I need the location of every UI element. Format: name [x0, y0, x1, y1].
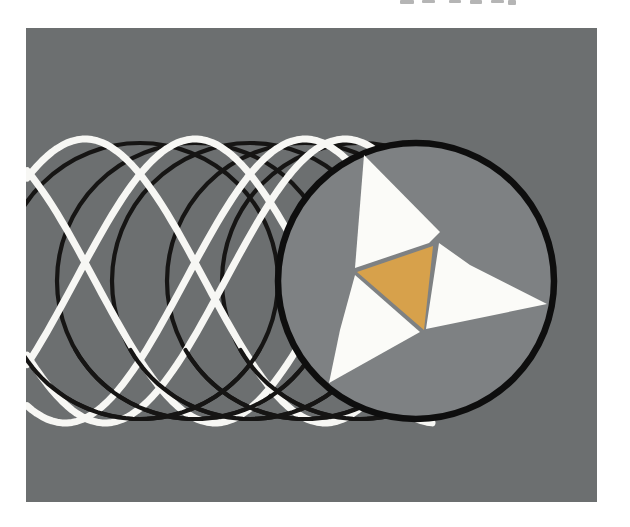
figure-svg	[0, 0, 630, 527]
scanned-page	[0, 0, 630, 527]
cropped-text-mark	[470, 0, 482, 4]
cropped-text-mark	[400, 0, 414, 4]
cropped-text-mark	[422, 0, 435, 3]
cropped-text-mark	[449, 0, 461, 3]
cropped-text-mark	[508, 0, 516, 5]
cropped-text-mark	[491, 0, 504, 3]
